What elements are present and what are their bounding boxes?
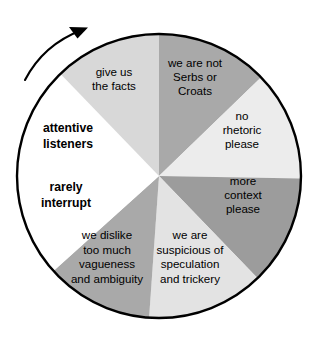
sector-vagueness-line-0: we dislike	[81, 228, 132, 241]
wheel-diagram: we are notSerbs orCroatsnorhetoricplease…	[0, 0, 323, 342]
sector-serbs-croats-line-0: we are not	[167, 56, 223, 69]
sector-suspicious-line-1: suspicious of	[156, 243, 224, 256]
sector-no-rhetoric-line-2: please	[225, 137, 259, 150]
sector-no-rhetoric-line-1: rhetoric	[223, 123, 262, 136]
rotation-arrow-head	[69, 27, 88, 39]
sector-vagueness-line-1: too much	[83, 243, 131, 256]
sector-suspicious-line-0: we are	[172, 228, 208, 241]
sector-no-rhetoric-line-0: no	[236, 109, 249, 122]
sector-attentive-listeners-line-1: listeners	[43, 137, 93, 151]
sector-serbs-croats-line-1: Serbs or	[173, 70, 217, 83]
sector-more-context-line-1: context	[224, 188, 262, 201]
sector-more-context-line-2: please	[226, 202, 260, 215]
sector-suspicious-line-2: speculation	[161, 257, 220, 270]
sector-vagueness-line-3: and ambiguity	[71, 272, 143, 285]
sector-give-us-facts-line-0: give us	[96, 65, 133, 78]
sector-attentive-listeners-line-0: attentive	[43, 121, 93, 135]
sector-layer	[17, 34, 301, 318]
sector-serbs-croats-line-2: Croats	[178, 84, 212, 97]
sector-suspicious-line-3: and trickery	[160, 272, 220, 285]
sector-give-us-facts-line-1: the facts	[92, 79, 136, 92]
sector-give-us-facts-label: give usthe facts	[92, 65, 136, 92]
sector-more-context-line-0: more	[230, 174, 256, 187]
sector-rarely-interrupt-line-0: rarely	[49, 180, 82, 194]
sector-vagueness-line-2: vagueness	[79, 257, 135, 270]
sector-rarely-interrupt-line-1: interrupt	[41, 196, 91, 210]
wheel-svg-canvas: we are notSerbs orCroatsnorhetoricplease…	[0, 0, 323, 342]
